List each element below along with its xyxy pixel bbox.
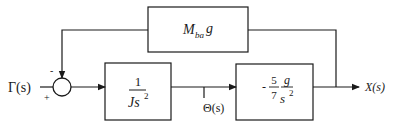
output-label: X(s) <box>364 80 385 94</box>
minus-sign: - <box>50 65 53 76</box>
svg-text:-: - <box>262 80 266 94</box>
plant2-transfer-function: - 5 7 g s 2 <box>262 73 294 106</box>
svg-text:s: s <box>280 91 285 106</box>
svg-text:7: 7 <box>271 89 277 101</box>
summing-junction <box>53 78 71 96</box>
svg-text:M: M <box>182 22 196 37</box>
svg-text:2: 2 <box>289 88 294 98</box>
feedback-pickoff-line <box>248 30 336 87</box>
svg-text:g: g <box>206 21 213 36</box>
plant1-transfer-function: 1 Js 2 <box>128 74 149 110</box>
block-diagram: Γ(s) - + 1 Js 2 Θ(s) - 5 7 g s 2 X(s) M … <box>0 0 394 126</box>
svg-text:5: 5 <box>271 74 277 86</box>
theta-label: Θ(s) <box>203 101 224 115</box>
plus-sign: + <box>44 92 50 103</box>
input-label: Γ(s) <box>8 80 31 96</box>
svg-text:2: 2 <box>144 91 149 101</box>
svg-text:1: 1 <box>135 74 142 89</box>
svg-text:g: g <box>284 73 290 87</box>
svg-text:Js: Js <box>128 95 140 110</box>
block-plant1 <box>105 63 171 120</box>
feedback-gain: M ba g <box>182 21 213 40</box>
svg-text:ba: ba <box>195 30 205 40</box>
